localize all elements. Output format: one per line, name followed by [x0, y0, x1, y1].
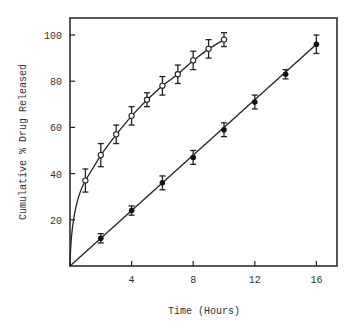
x-tick-label: 8: [190, 275, 196, 286]
data-point: [82, 169, 88, 192]
filled-circle-marker: [98, 235, 104, 241]
filled-circle-marker: [160, 180, 166, 186]
x-tick-label: 4: [129, 275, 135, 286]
y-tick-label: 20: [50, 216, 62, 227]
data-point: [159, 176, 165, 190]
y-tick-label: 100: [44, 31, 62, 42]
filled-circle-marker: [129, 208, 135, 214]
open-circle-marker: [129, 113, 134, 118]
data-point: [129, 206, 135, 215]
open-circle-marker: [221, 37, 226, 42]
open-circle-marker: [144, 97, 149, 102]
chart: 20406080100 481216 Time (Hours) Cumulati…: [0, 0, 349, 328]
filled-circle-marker: [190, 155, 196, 161]
open-circle-marker: [83, 178, 88, 183]
x-tick-label: 16: [310, 275, 322, 286]
y-tick-label: 80: [50, 77, 62, 88]
filled-circle-marker: [252, 99, 258, 105]
data-point: [175, 65, 181, 83]
filled-circle-marker: [314, 41, 320, 47]
data-point: [98, 144, 104, 167]
data-point: [129, 107, 135, 125]
data-point: [221, 33, 227, 47]
data-points: [82, 33, 319, 243]
data-point: [144, 93, 150, 107]
data-point: [113, 125, 119, 143]
open-circle-marker: [114, 132, 119, 137]
data-point: [98, 234, 104, 243]
data-point: [206, 40, 212, 58]
y-tick-label: 60: [50, 123, 62, 134]
data-point: [159, 77, 165, 95]
filled-circle-marker: [283, 71, 289, 77]
data-point: [190, 51, 196, 69]
open-circle-marker: [175, 72, 180, 77]
open-circle-marker: [98, 153, 103, 158]
data-point: [283, 70, 289, 79]
open-circle-marker: [191, 58, 196, 63]
open-circle-marker: [206, 46, 211, 51]
open-circle-marker: [160, 83, 165, 88]
data-point: [313, 35, 319, 53]
filled-circle-marker: [221, 127, 227, 133]
fit-curve-open: [70, 40, 224, 266]
x-tick-label: 12: [249, 275, 261, 286]
y-axis-label: Cumulative % Drug Released: [18, 64, 29, 220]
x-axis-ticks: 481216: [129, 261, 323, 286]
y-tick-label: 40: [50, 170, 62, 181]
x-axis-label: Time (Hours): [168, 306, 240, 317]
